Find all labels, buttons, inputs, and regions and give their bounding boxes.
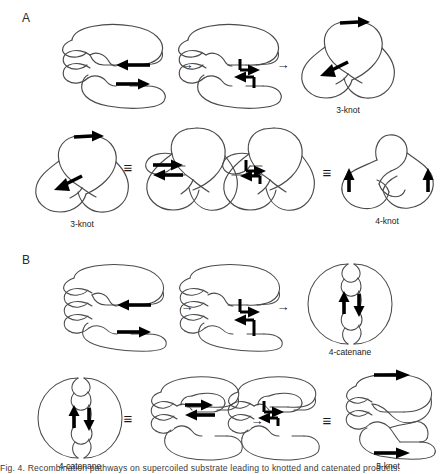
equivalence-b2-2: ≡ — [323, 413, 332, 428]
site-arrow-up — [339, 291, 350, 314]
site-arrow-right-up — [423, 168, 434, 192]
label-3-knot-a2: 3-knot — [70, 219, 94, 229]
site-arrow-down — [84, 408, 95, 431]
site-arrow-top — [74, 131, 104, 142]
five-knot — [334, 366, 442, 464]
site-arrow-upper-right — [185, 400, 213, 411]
site-arrow-up — [69, 405, 80, 428]
figure-eight-knot — [335, 126, 439, 218]
label-4-knot: 4-knot — [375, 216, 399, 226]
reaction-arrow-b1-2: → — [277, 300, 290, 313]
site-arrow-left — [117, 300, 151, 311]
synapse-complex-3-node — [168, 258, 286, 352]
site-arrow-upper-right — [153, 160, 183, 171]
site-arrow-left — [320, 62, 348, 77]
panel-label-b: B — [22, 253, 30, 267]
dna-backbone — [179, 25, 282, 109]
site-arrow-left — [54, 176, 82, 191]
site-arrow-left — [116, 60, 150, 71]
four-catenane-b2 — [30, 372, 130, 464]
catenane-synapse-complex — [212, 368, 324, 464]
dna-backbone — [346, 374, 435, 459]
synapse-complex-2-node — [168, 18, 286, 110]
label-4-catenane-b1: 4-catenane — [329, 347, 372, 357]
site-arrow-bottom-right — [374, 448, 410, 459]
dna-backbone — [64, 265, 167, 352]
dna-backbone — [342, 135, 433, 209]
equivalence-a2-2: ≡ — [323, 165, 332, 180]
site-arrow-lower-left — [185, 410, 215, 421]
dna-backbone — [36, 136, 129, 212]
trefoil-synapse-complex — [212, 122, 322, 220]
site-arrow-top — [340, 17, 370, 28]
dna-backbone — [308, 264, 392, 344]
dna-backbone — [180, 265, 283, 352]
site-arrow-right — [116, 79, 150, 90]
four-catenane-b1 — [300, 258, 400, 350]
trefoil-knot-a1 — [296, 14, 400, 106]
dna-backbone — [302, 22, 395, 98]
site-arrow-top-right — [374, 370, 410, 381]
synapse-arrow-pair — [234, 59, 260, 88]
site-arrow-right — [117, 327, 151, 338]
dna-backbone — [223, 128, 315, 210]
supercoiled-substrate-3-node — [52, 258, 170, 352]
figure-root: A B — [0, 0, 445, 474]
dna-backbone — [38, 378, 122, 458]
trefoil-knot-a2 — [30, 128, 134, 220]
label-3-knot-a1: 3-knot — [336, 105, 360, 115]
reaction-arrow-a1-2: → — [277, 58, 290, 71]
panel-label-a: A — [22, 11, 30, 25]
figure-caption: Fig. 4. Recombination pathways on superc… — [0, 463, 445, 473]
equivalence-b2-1: ≡ — [124, 411, 133, 426]
equivalence-a2-1: ≡ — [124, 160, 133, 175]
site-arrow-down — [354, 294, 365, 317]
supercoiled-substrate-2-node — [52, 18, 170, 110]
